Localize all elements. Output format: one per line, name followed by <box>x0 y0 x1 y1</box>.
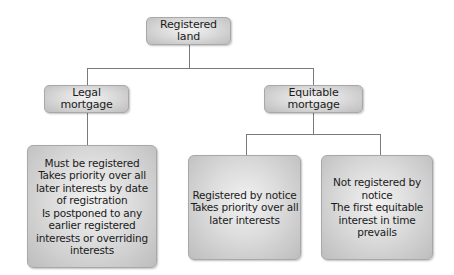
leaf-node-equitable-registered: Registered by notice Takes priority over… <box>188 155 301 260</box>
connector-equitable-down <box>313 113 314 134</box>
leaf-node-legal-mortgage-rules: Must be registered Takes priority over a… <box>27 145 157 268</box>
branch-node-label: Equitable mortgage <box>265 87 362 112</box>
branch-node-equitable-mortgage: Equitable mortgage <box>264 85 363 113</box>
leaf-node-text: Must be registered Takes priority over a… <box>36 157 148 257</box>
leaf-node-text: Registered by notice Takes priority over… <box>191 189 299 227</box>
branch-node-label: Legal mortgage <box>45 87 128 112</box>
leaf-node-equitable-not-registered: Not registered by notice The first equit… <box>321 155 433 260</box>
leaf-node-text: Not registered by notice The first equit… <box>322 176 432 239</box>
connector-root-down <box>189 45 190 68</box>
root-node-label: Registered land <box>147 19 230 44</box>
connector-root-horizontal <box>87 68 314 69</box>
connector-to-legal <box>87 68 88 85</box>
connector-legal-down <box>87 113 88 145</box>
branch-node-legal-mortgage: Legal mortgage <box>44 85 129 113</box>
connector-equitable-horizontal <box>246 134 381 135</box>
root-node-registered-land: Registered land <box>146 17 231 45</box>
connector-to-equitable-leaf-2 <box>380 134 381 155</box>
connector-to-equitable <box>313 68 314 85</box>
connector-to-equitable-leaf-1 <box>246 134 247 155</box>
